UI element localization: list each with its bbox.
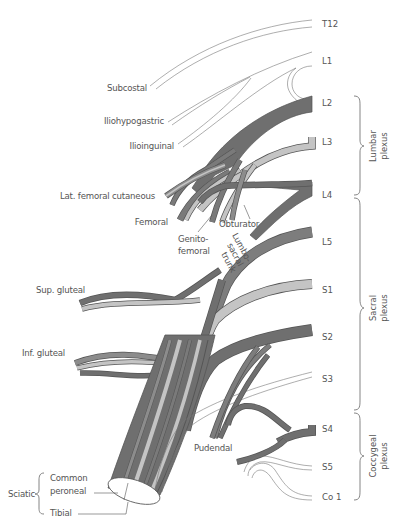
svg-text:plexus: plexus: [379, 294, 389, 321]
root-label-l4: L4: [322, 190, 332, 200]
lumbosacral-plexus-diagram: T12 L1 L2 L3 L4 L5 S1 S2 S3 S4 S5 Co 1 L…: [0, 0, 407, 527]
label-common-peroneal-2: peroneal: [50, 486, 86, 496]
svg-text:plexus: plexus: [379, 442, 389, 469]
sacral-brace: [354, 198, 364, 410]
s4-root: [228, 406, 312, 462]
label-common-peroneal-1: Common: [50, 473, 88, 483]
label-pudendal: Pudendal: [194, 443, 232, 453]
plexus-braces: [354, 96, 364, 500]
coccygeal-brace: [354, 413, 364, 500]
label-obturator: Obturator: [219, 219, 260, 229]
lumbar-brace: [354, 96, 364, 195]
label-iliohypogastric: Iliohypogastric: [104, 116, 165, 126]
root-label-t12: T12: [321, 19, 338, 29]
root-label-s5: S5: [322, 462, 333, 472]
root-label-s1: S1: [322, 285, 333, 295]
svg-text:Sacral: Sacral: [368, 295, 378, 321]
root-label-s4: S4: [322, 424, 333, 434]
plexus-label-coccygeal: Coccygeal plexus: [368, 434, 389, 477]
label-subcostal: Subcostal: [107, 83, 147, 93]
label-tibial: Tibial: [49, 508, 72, 518]
label-ilioinguinal: Ilioinguinal: [130, 141, 174, 151]
label-inf-gluteal: Inf. gluteal: [22, 348, 65, 358]
root-labels: T12 L1 L2 L3 L4 L5 S1 S2 S3 S4 S5 Co 1: [321, 19, 341, 502]
root-label-l3: L3: [322, 137, 332, 147]
label-lat-femoral-cutaneous: Lat. femoral cutaneous: [60, 191, 156, 201]
label-femoral: Femoral: [135, 217, 168, 227]
root-label-l1: L1: [322, 56, 332, 66]
root-label-s3: S3: [322, 374, 333, 384]
root-label-l2: L2: [322, 98, 332, 108]
svg-text:Coccygeal: Coccygeal: [368, 434, 378, 477]
subcostal-nerve: [150, 20, 312, 89]
s5-co1-roots: [244, 456, 312, 500]
root-label-s2: S2: [322, 332, 333, 342]
plexus-label-lumbar: Lumbar plexus: [368, 130, 389, 162]
plexus-label-sacral: Sacral plexus: [368, 294, 389, 321]
label-genitofemoral-2: femoral: [178, 246, 210, 256]
sciatic-brace: [35, 473, 44, 514]
root-label-l5: L5: [322, 237, 332, 247]
svg-text:Lumbar: Lumbar: [368, 130, 378, 162]
svg-text:plexus: plexus: [379, 132, 389, 159]
label-genitofemoral-1: Genito-: [178, 234, 208, 244]
label-sciatic: Sciatic: [8, 489, 35, 499]
label-sup-gluteal: Sup. gluteal: [36, 285, 85, 295]
root-label-co1: Co 1: [322, 492, 341, 502]
sup-gluteal-nerve: [80, 270, 220, 309]
